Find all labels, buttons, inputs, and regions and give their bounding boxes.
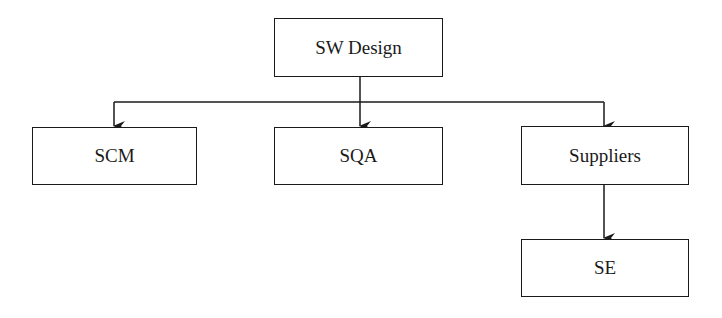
node-label: SCM xyxy=(94,145,134,167)
node-label: SQA xyxy=(339,145,377,167)
node-se: SE xyxy=(521,239,689,297)
node-label: Suppliers xyxy=(569,145,641,167)
node-suppliers: Suppliers xyxy=(521,126,689,185)
node-scm: SCM xyxy=(32,127,197,185)
node-label: SE xyxy=(594,257,616,279)
node-sw-design: SW Design xyxy=(274,18,443,77)
node-label: SW Design xyxy=(315,37,402,59)
node-sqa: SQA xyxy=(274,127,443,185)
